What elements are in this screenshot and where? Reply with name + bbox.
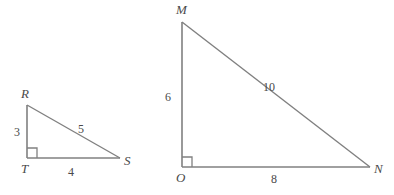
vertex-label-N: N [374,162,383,175]
triangle-RTS-shape [27,105,120,158]
side-label-RS: 5 [78,123,84,135]
side-label-MO: 6 [165,91,171,103]
segment-MN [182,22,370,167]
triangle-MON-shape [182,22,370,167]
vertex-label-R: R [21,87,29,100]
vertex-label-T: T [21,162,28,175]
vertex-label-O: O [176,171,185,184]
side-label-ON: 8 [271,173,277,185]
side-label-RT: 3 [14,126,20,138]
vertex-label-S: S [124,154,131,167]
side-label-MN: 10 [263,81,275,93]
geometry-figure: R T S 3 4 5 M O N 6 8 10 [0,0,394,195]
vertex-label-M: M [176,3,187,16]
right-angle-mark-T [27,148,37,158]
segment-RS [27,105,120,158]
triangles-drawing [0,0,394,195]
right-angle-mark-O [182,157,192,167]
side-label-TS: 4 [68,166,74,178]
